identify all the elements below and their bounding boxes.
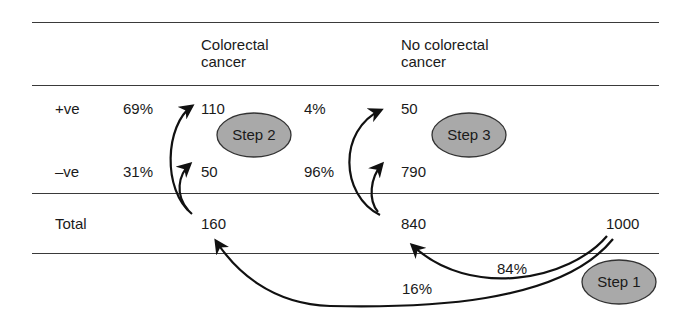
step-1-label: Step 1 <box>582 273 656 290</box>
step-2-label: Step 2 <box>217 126 291 143</box>
arrow-grand-total-to-colorectal <box>216 239 613 306</box>
step-3-label: Step 3 <box>432 126 506 143</box>
arrow-total-to-negative-no-colorectal <box>372 164 382 212</box>
tree-diagram-table: Colorectal cancer No colorectal cancer +… <box>0 0 689 328</box>
arrow-total-to-positive-no-colorectal <box>349 110 381 215</box>
arrow-grand-total-to-no-colorectal <box>412 236 607 278</box>
